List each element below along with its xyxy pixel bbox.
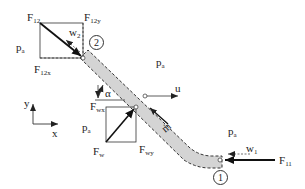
label-f11: F11 — [279, 155, 292, 168]
label-f12: F12 — [27, 12, 40, 25]
fw-component-box — [106, 107, 136, 142]
label-f12y: F12y — [84, 12, 101, 25]
label-fwx: Fwx — [90, 101, 105, 114]
label-w1: w1 — [246, 143, 257, 156]
label-alpha: α — [105, 88, 111, 99]
label-pa-top-right: pa — [156, 57, 165, 70]
label-axis-y: y — [24, 98, 30, 109]
section-2-point — [81, 56, 85, 60]
section-1-marker: 1 — [213, 170, 228, 185]
label-axis-x: x — [52, 128, 58, 139]
label-pa-left: pa — [16, 42, 25, 55]
fw-arrow — [106, 109, 134, 142]
label-fw: Fw — [93, 146, 104, 159]
section-1-point — [218, 158, 222, 162]
label-w2: w2 — [69, 27, 80, 40]
label-pa-mid-left: pa — [82, 122, 91, 135]
label-pa-right: pa — [228, 126, 237, 139]
label-fwy: Fwy — [139, 144, 154, 157]
section-2-marker: 2 — [89, 35, 104, 50]
label-f12x: F12x — [34, 64, 51, 77]
coordinate-axes — [33, 104, 58, 124]
label-u: u — [175, 83, 181, 94]
pipe-bend-diagram — [0, 0, 305, 189]
